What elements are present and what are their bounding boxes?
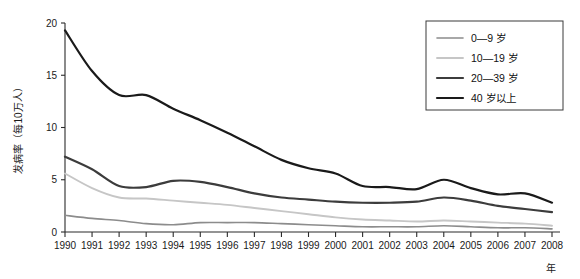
- x-tick-label: 1998: [270, 240, 293, 251]
- y-axis-tick-labels: 05101520: [46, 18, 58, 238]
- legend-label-2: 20—39 岁: [471, 72, 518, 84]
- chart-container: 05101520 1990199119921993199419951996199…: [0, 0, 580, 279]
- x-tick-label: 1995: [189, 240, 212, 251]
- x-tick-label: 2006: [487, 240, 510, 251]
- y-tick-label: 20: [46, 18, 58, 29]
- x-tick-label: 2007: [514, 240, 537, 251]
- series-line-2: [65, 157, 552, 212]
- x-tick-label: 2008: [541, 240, 564, 251]
- x-axis-ticks: [65, 232, 552, 237]
- legend-label-3: 40 岁以上: [471, 92, 516, 104]
- x-tick-label: 1996: [216, 240, 239, 251]
- y-tick-label: 10: [46, 122, 58, 133]
- line-chart: 05101520 1990199119921993199419951996199…: [0, 0, 580, 279]
- x-tick-label: 1990: [54, 240, 77, 251]
- x-axis-tick-labels: 1990199119921993199419951996199719981999…: [54, 240, 564, 251]
- x-tick-label: 1994: [162, 240, 185, 251]
- y-tick-label: 0: [51, 227, 57, 238]
- x-tick-label: 2004: [433, 240, 456, 251]
- x-tick-label: 2000: [324, 240, 347, 251]
- x-tick-label: 1997: [243, 240, 266, 251]
- x-tick-label: 1999: [297, 240, 320, 251]
- x-tick-label: 1991: [81, 240, 104, 251]
- y-axis-ticks: [61, 23, 65, 232]
- x-tick-label: 2003: [406, 240, 429, 251]
- x-tick-label: 2002: [379, 240, 402, 251]
- x-axis-title: 年: [546, 262, 556, 274]
- x-tick-label: 2001: [351, 240, 374, 251]
- chart-legend: 0—9 岁10—19 岁20—39 岁40 岁以上: [426, 21, 563, 110]
- y-tick-label: 5: [51, 174, 57, 185]
- x-tick-label: 1993: [135, 240, 158, 251]
- y-axis-title: 发病率（每10万人）: [12, 82, 24, 173]
- x-tick-label: 2005: [460, 240, 483, 251]
- x-tick-label: 1992: [108, 240, 131, 251]
- legend-label-0: 0—9 岁: [471, 32, 506, 44]
- y-axis-title-group: 发病率（每10万人）: [12, 82, 24, 173]
- y-tick-label: 15: [46, 70, 58, 81]
- legend-label-1: 10—19 岁: [471, 52, 518, 64]
